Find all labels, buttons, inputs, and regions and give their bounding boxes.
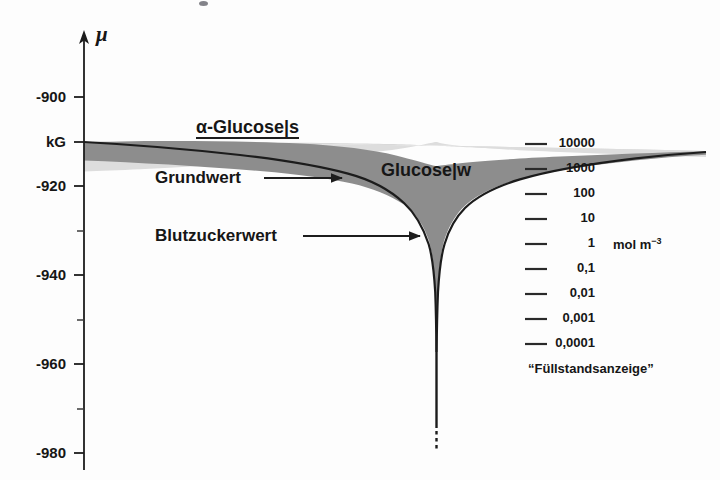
- y-axis-major-ticks: [74, 97, 84, 453]
- chart-plot-area: [0, 0, 720, 480]
- legend-caption: “Füllstandsanzeige”: [528, 362, 654, 375]
- y-axis-minor-ticks: [77, 231, 84, 409]
- legend-value-1: 1: [485, 236, 595, 249]
- y-tick-label-920: -920: [8, 178, 66, 193]
- series-label-alpha-glucose-solid: α-Glucose|s: [196, 118, 299, 139]
- figure-canvas: μ -900 kG -920 -940 -960 -980 α-Glucose|…: [0, 0, 720, 480]
- legend-value-0-1: 0,1: [485, 261, 595, 274]
- annotation-grundwert: Grundwert: [155, 169, 241, 186]
- annotation-blutzuckerwert: Blutzuckerwert: [155, 227, 277, 244]
- legend-value-100: 100: [485, 186, 595, 199]
- y-axis-symbol: μ: [96, 24, 108, 45]
- legend-value-0-0001: 0,0001: [485, 336, 595, 349]
- scan-artifact: [199, 1, 208, 6]
- legend-value-1000: 1000: [485, 161, 595, 174]
- legend-value-0-001: 0,001: [485, 311, 595, 324]
- legend-value-0-01: 0,01: [485, 286, 595, 299]
- legend-value-10: 10: [485, 211, 595, 224]
- series-label-glucose-aqueous: Glucose|w: [381, 161, 471, 179]
- legend-unit-exponent: −3: [651, 236, 661, 246]
- legend-unit: mol m−3: [613, 237, 662, 251]
- y-tick-label-980: -980: [8, 445, 66, 460]
- legend-unit-text: mol m: [613, 237, 651, 252]
- legend-value-10000: 10000: [485, 136, 595, 149]
- y-tick-label-940: -940: [8, 267, 66, 282]
- y-tick-label-kG: kG: [8, 134, 66, 149]
- y-tick-label-900: -900: [8, 89, 66, 104]
- y-tick-label-960: -960: [8, 356, 66, 371]
